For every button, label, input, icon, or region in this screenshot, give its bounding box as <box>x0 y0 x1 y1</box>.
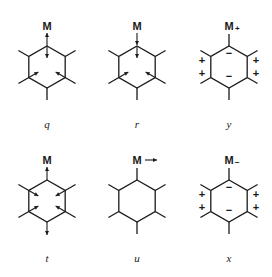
ring-arrow-down-icon <box>45 222 49 235</box>
metal-arrow-down-icon <box>135 33 139 45</box>
positive-charge: + <box>253 54 259 66</box>
panel-t: Mt <box>18 154 75 264</box>
ring-arrow-inward-icon <box>146 72 156 78</box>
negative-charge: − <box>226 70 232 82</box>
substituent-bond <box>155 212 165 218</box>
panel-caption: x <box>226 252 232 264</box>
metal-arrow-up-icon <box>45 167 49 180</box>
ring-arrow-inward-icon <box>56 206 66 212</box>
positive-charge: + <box>199 201 205 213</box>
substituent-bond <box>18 212 28 218</box>
substituent-bond <box>108 212 118 218</box>
positive-charge: + <box>199 67 205 79</box>
vibration-modes-diagram: MqMrM+−−++++yMtMuM−−−++++x <box>0 0 272 277</box>
panel-caption: q <box>44 118 50 130</box>
ring-arrow-inward-icon <box>29 206 39 212</box>
substituent-bond <box>18 185 28 191</box>
metal-charge: + <box>235 24 240 33</box>
substituent-bond <box>18 51 28 57</box>
metal-label: M <box>132 154 141 166</box>
metal-label: M <box>42 20 51 32</box>
ring-arrow-inward-icon <box>56 191 66 197</box>
panel-caption: t <box>45 252 49 264</box>
ring-arrow-inward-icon <box>29 191 39 197</box>
substituent-bond <box>155 51 165 57</box>
positive-charge: + <box>253 201 259 213</box>
negative-charge: − <box>226 47 232 59</box>
positive-charge: + <box>253 188 259 200</box>
metal-arrow-up-icon <box>45 33 49 46</box>
metal-label: M <box>42 154 51 166</box>
ring-arrow-down-icon <box>45 46 49 58</box>
panel-q: Mq <box>18 20 75 130</box>
substituent-bond <box>65 185 75 191</box>
panel-r: Mr <box>108 20 165 130</box>
substituent-bond <box>155 185 165 191</box>
panel-y: M+−−++++y <box>199 20 259 130</box>
metal-arrow-right-icon <box>145 158 157 162</box>
substituent-bond <box>18 78 28 84</box>
panel-caption: r <box>135 118 140 130</box>
panel-caption: y <box>226 118 232 130</box>
ring-arrow-inward-icon <box>119 72 129 78</box>
metal-label: M <box>224 20 233 32</box>
positive-charge: + <box>199 54 205 66</box>
metal-label: M <box>132 20 141 32</box>
ring-arrow-down-icon <box>135 46 139 58</box>
negative-charge: − <box>226 204 232 216</box>
substituent-bond <box>65 78 75 84</box>
metal-label: M <box>224 154 233 166</box>
positive-charge: + <box>253 67 259 79</box>
substituent-bond <box>65 212 75 218</box>
metal-charge: − <box>235 158 240 167</box>
benzene-ring <box>29 180 65 222</box>
panel-u: Mu <box>108 154 165 264</box>
ring-arrow-inward-icon <box>29 72 39 78</box>
substituent-bond <box>65 51 75 57</box>
benzene-ring <box>119 180 155 222</box>
panel-x: M−−−++++x <box>199 154 259 264</box>
substituent-bond <box>155 78 165 84</box>
substituent-bond <box>108 78 118 84</box>
substituent-bond <box>108 185 118 191</box>
substituent-bond <box>108 51 118 57</box>
negative-charge: − <box>226 181 232 193</box>
ring-arrow-inward-icon <box>56 72 66 78</box>
panel-caption: u <box>134 252 140 264</box>
positive-charge: + <box>199 188 205 200</box>
